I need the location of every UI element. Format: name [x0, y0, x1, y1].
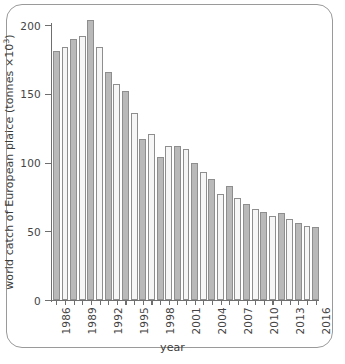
x-tick-label-2010: 2010	[268, 307, 280, 335]
x-tick-2015	[307, 301, 308, 305]
x-tick-2010	[264, 301, 265, 305]
x-tick-1998	[160, 301, 161, 305]
x-tick-label-1992: 1992	[112, 307, 124, 335]
bar-1994	[122, 91, 129, 300]
bar-1990	[87, 20, 94, 301]
x-tick-1988	[74, 301, 75, 305]
x-tick-1990	[91, 301, 92, 305]
x-tick-label-1998: 1998	[164, 307, 176, 335]
x-tick-1987	[65, 301, 66, 305]
y-axis-title: world catch of European plaice (tonnes ×…	[2, 34, 17, 290]
x-tick-2008	[247, 301, 248, 305]
bar-2005	[217, 194, 224, 300]
bar-1993	[113, 84, 120, 300]
x-tick-label-1989: 1989	[86, 307, 98, 335]
y-tick-100: 100	[45, 163, 52, 164]
x-tick-2002	[195, 301, 196, 305]
x-tick-2001	[186, 301, 187, 305]
bar-1997	[148, 134, 155, 300]
x-tick-label-2004: 2004	[216, 307, 228, 335]
x-tick-2013	[290, 301, 291, 305]
bar-1989	[79, 36, 86, 300]
x-tick-2012	[281, 301, 282, 305]
plot-area	[52, 25, 320, 300]
x-tick-1986	[56, 301, 57, 305]
x-tick-2016	[316, 301, 317, 305]
y-axis-title-prefix: world catch of European plaice (tonnes ×…	[3, 44, 16, 290]
bar-2007	[234, 198, 241, 300]
bar-1987	[62, 47, 69, 300]
bar-1988	[70, 39, 77, 300]
x-tick-1994	[125, 301, 126, 305]
bar-2008	[243, 204, 250, 300]
y-tick-200: 200	[45, 25, 52, 26]
bar-2004	[208, 179, 215, 300]
y-tick-0: 0	[45, 300, 52, 301]
y-tick-150: 150	[45, 94, 52, 95]
y-tick-50: 50	[45, 231, 52, 232]
bar-1995	[131, 113, 138, 300]
bar-1986	[53, 51, 60, 300]
x-tick-2007	[238, 301, 239, 305]
y-tick-label-200: 200	[20, 20, 41, 32]
bar-2003	[200, 172, 207, 300]
bar-2013	[286, 219, 293, 300]
x-tick-label-2001: 2001	[190, 307, 202, 335]
bar-2015	[304, 226, 311, 300]
y-tick-label-50: 50	[27, 226, 41, 238]
x-tick-2006	[229, 301, 230, 305]
bar-2011	[269, 216, 276, 300]
x-tick-2009	[255, 301, 256, 305]
bar-1996	[139, 139, 146, 300]
bar-2012	[278, 213, 285, 300]
x-tick-2014	[298, 301, 299, 305]
bar-2014	[295, 223, 302, 300]
y-tick-label-0: 0	[34, 295, 41, 307]
x-tick-2000	[177, 301, 178, 305]
x-tick-label-2016: 2016	[320, 307, 332, 335]
x-tick-1993	[117, 301, 118, 305]
x-tick-1991	[100, 301, 101, 305]
x-tick-label-2007: 2007	[242, 307, 254, 335]
bar-1991	[96, 47, 103, 300]
bar-2016	[312, 227, 319, 300]
x-tick-1992	[108, 301, 109, 305]
x-tick-label-1995: 1995	[138, 307, 150, 335]
x-tick-label-1986: 1986	[60, 307, 72, 335]
bar-2000	[174, 146, 181, 300]
x-axis-title: year	[0, 341, 345, 354]
bar-1998	[157, 157, 164, 300]
bar-2002	[191, 163, 198, 301]
x-tick-1996	[143, 301, 144, 305]
x-tick-2003	[203, 301, 204, 305]
bar-2010	[260, 212, 267, 300]
x-tick-1997	[151, 301, 152, 305]
y-axis-title-exponent: 3	[2, 39, 11, 44]
y-tick-label-150: 150	[20, 88, 41, 100]
x-tick-1995	[134, 301, 135, 305]
x-tick-2011	[272, 301, 273, 305]
bar-2006	[226, 186, 233, 300]
x-tick-2005	[221, 301, 222, 305]
y-axis-title-suffix: )	[3, 34, 16, 38]
bar-1999	[165, 146, 172, 300]
bar-2009	[252, 209, 259, 300]
x-tick-label-2013: 2013	[294, 307, 306, 335]
bar-2001	[183, 149, 190, 300]
x-tick-1989	[82, 301, 83, 305]
y-tick-label-100: 100	[20, 157, 41, 169]
x-tick-1999	[169, 301, 170, 305]
x-tick-2004	[212, 301, 213, 305]
bar-1992	[105, 72, 112, 300]
